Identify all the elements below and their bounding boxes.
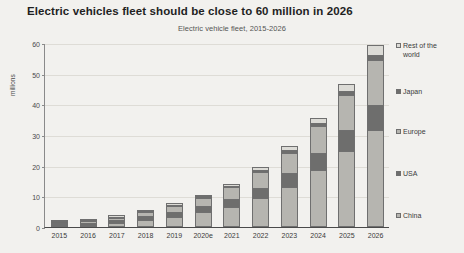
bar-segment[interactable] — [252, 172, 269, 188]
x-axis-tick-label: 2020e — [193, 232, 212, 239]
bar-segment[interactable] — [252, 188, 269, 198]
x-axis-tick-label: 2021 — [224, 232, 240, 239]
bar-group[interactable]: 2017 — [108, 215, 125, 227]
plot-area: 0102030405060 201520162017201820192020e2… — [44, 44, 389, 228]
y-axis-tick-label: 60 — [32, 41, 40, 48]
bar-group[interactable]: 2025 — [338, 84, 355, 227]
x-axis-tick-label: 2025 — [339, 232, 355, 239]
bar-segment[interactable] — [51, 225, 68, 227]
legend-item[interactable]: USA — [396, 170, 417, 179]
legend-item[interactable]: Rest of the world — [396, 42, 455, 59]
bar-segment[interactable] — [367, 105, 384, 130]
bar-segment[interactable] — [108, 223, 125, 227]
bar-group[interactable]: 2018 — [137, 210, 154, 227]
x-axis-tick-label: 2017 — [109, 232, 125, 239]
y-axis-title: millions — [9, 74, 16, 96]
x-axis-tick-label: 2018 — [138, 232, 154, 239]
bar-segment[interactable] — [310, 126, 327, 152]
legend-item[interactable]: China — [396, 212, 421, 221]
legend-swatch-icon — [396, 89, 401, 94]
legend-swatch-icon — [396, 129, 401, 134]
bar-segment[interactable] — [223, 199, 240, 207]
y-axis-tick-label: 0 — [36, 225, 40, 232]
bar-segment[interactable] — [223, 187, 240, 199]
legend-label: Europe — [403, 128, 426, 137]
x-axis-tick-label: 2016 — [80, 232, 96, 239]
y-axis-tick-label: 30 — [32, 133, 40, 140]
chart-title: Electric vehicles fleet should be close … — [27, 5, 353, 17]
bar-series-layer: 201520162017201820192020e202120222023202… — [45, 44, 389, 227]
legend-label: Japan — [403, 88, 422, 97]
chart-subtitle: Electric vehicle fleet, 2015-2026 — [0, 24, 464, 33]
bar-segment[interactable] — [367, 60, 384, 105]
x-axis-tick-label: 2026 — [368, 232, 384, 239]
bar-group[interactable]: 2024 — [310, 118, 327, 227]
bar-group[interactable]: 2023 — [281, 146, 298, 227]
x-axis-tick-label: 2015 — [52, 232, 68, 239]
bar-segment[interactable] — [166, 217, 183, 227]
legend-item[interactable]: Europe — [396, 128, 426, 137]
bar-segment[interactable] — [223, 207, 240, 227]
bar-group[interactable]: 2022 — [252, 167, 269, 227]
bar-group[interactable]: 2021 — [223, 184, 240, 227]
bar-segment[interactable] — [281, 187, 298, 227]
bar-segment[interactable] — [195, 212, 212, 227]
bar-segment[interactable] — [137, 220, 154, 227]
y-axis-tick-label: 40 — [32, 102, 40, 109]
legend-swatch-icon — [396, 213, 401, 218]
legend-label: China — [403, 212, 421, 221]
bar-segment[interactable] — [310, 153, 327, 170]
bar-segment[interactable] — [281, 173, 298, 186]
y-axis-tick-label: 10 — [32, 194, 40, 201]
legend-swatch-icon — [396, 171, 401, 176]
x-axis-tick-label: 2024 — [310, 232, 326, 239]
bar-group[interactable]: 2020e — [195, 195, 212, 227]
bar-segment[interactable] — [338, 95, 355, 130]
bar-segment[interactable] — [80, 225, 97, 227]
x-axis-tick-label: 2019 — [167, 232, 183, 239]
chart-container: Electric vehicles fleet should be close … — [0, 0, 464, 253]
y-axis-tick-label: 20 — [32, 163, 40, 170]
bar-segment[interactable] — [310, 170, 327, 227]
legend-swatch-icon — [396, 43, 401, 48]
bar-group[interactable]: 2016 — [80, 219, 97, 227]
bar-segment[interactable] — [338, 130, 355, 151]
bar-group[interactable]: 2015 — [51, 220, 68, 227]
bar-segment[interactable] — [367, 130, 384, 227]
y-axis-tick-label: 50 — [32, 71, 40, 78]
legend-label: USA — [403, 170, 417, 179]
bar-segment[interactable] — [195, 198, 212, 207]
legend-label: Rest of the world — [403, 42, 455, 59]
y-tick-mark — [42, 228, 45, 229]
legend-item[interactable]: Japan — [396, 88, 422, 97]
bar-segment[interactable] — [338, 84, 355, 92]
x-axis-tick-label: 2022 — [253, 232, 269, 239]
bar-segment[interactable] — [252, 198, 269, 227]
bar-segment[interactable] — [367, 45, 384, 55]
bar-segment[interactable] — [281, 153, 298, 174]
bar-group[interactable]: 2026 — [367, 45, 384, 227]
bar-group[interactable]: 2019 — [166, 203, 183, 227]
x-axis-tick-label: 2023 — [282, 232, 298, 239]
bar-segment[interactable] — [338, 151, 355, 227]
